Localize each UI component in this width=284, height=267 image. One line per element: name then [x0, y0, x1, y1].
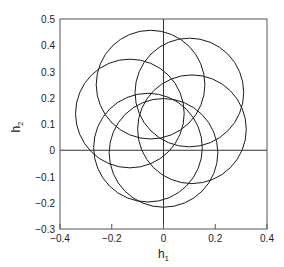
y-axis-label-main: h [9, 126, 23, 133]
y-axis-label: h2 [9, 121, 25, 133]
y-tick-label: 0.3 [41, 67, 55, 78]
x-tick-label: 0.2 [208, 233, 222, 244]
chart: −0.4−0.200.20.4 −0.3−0.2−0.100.10.20.30.… [0, 0, 284, 267]
y-tick-label: −0.1 [35, 172, 55, 183]
y-tick-label: 0.2 [41, 93, 55, 104]
x-ticks: −0.4−0.200.20.4 [50, 224, 274, 244]
x-tick-label: 0 [161, 233, 167, 244]
x-tick-label: −0.2 [102, 233, 122, 244]
y-tick-label: 0.4 [41, 40, 55, 51]
y-tick-label: 0.5 [41, 14, 55, 25]
x-axis-label: h1 [158, 247, 170, 263]
y-tick-label: −0.3 [35, 224, 55, 235]
circle-3 [76, 59, 185, 168]
y-tick-label: 0.1 [41, 119, 55, 130]
y-tick-label: −0.2 [35, 198, 55, 209]
circle-1 [96, 30, 205, 139]
x-tick-label: 0.4 [260, 233, 274, 244]
y-axis-label-sub: 2 [16, 121, 25, 126]
circle-5 [94, 93, 203, 202]
x-axis-label-sub: 1 [165, 254, 170, 263]
x-axis-label-main: h [158, 247, 165, 261]
y-ticks: −0.3−0.2−0.100.10.20.30.40.5 [35, 14, 55, 235]
circles-group [76, 30, 247, 207]
y-tick-label: 0 [49, 145, 55, 156]
